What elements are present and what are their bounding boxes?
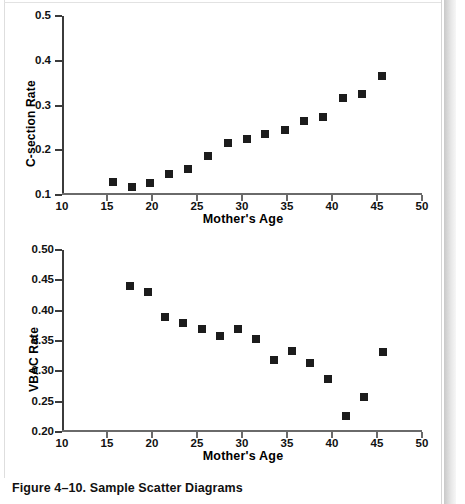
- y-tick-mark: [55, 149, 62, 151]
- y-tick-label: 0.20: [32, 426, 54, 438]
- y-tick-mark: [55, 431, 62, 433]
- plot-area-vbac: 0.200.250.300.350.400.450.50 10152025303…: [62, 250, 422, 432]
- y-axis-line-vbac: [62, 250, 64, 432]
- y-tick-label: 0.40: [32, 305, 54, 317]
- y-axis-title-c-section: C-section Rate: [24, 80, 38, 167]
- data-point: [339, 94, 347, 102]
- data-point: [128, 183, 136, 191]
- data-point: [252, 335, 260, 343]
- data-point: [300, 117, 308, 125]
- y-tick-label: 0.50: [32, 244, 54, 256]
- y-tick-mark: [55, 60, 62, 62]
- x-tick-label: 50: [416, 201, 429, 213]
- data-point: [324, 375, 332, 383]
- data-point: [146, 179, 154, 187]
- y-tick-label: 0.45: [32, 275, 54, 287]
- y-tick-mark: [55, 249, 62, 251]
- x-tick-label: 30: [236, 201, 249, 213]
- data-point: [161, 313, 169, 321]
- data-point: [378, 72, 386, 80]
- x-tick-label: 45: [371, 438, 384, 450]
- data-point: [234, 325, 242, 333]
- data-point: [261, 130, 269, 138]
- x-tick-label: 40: [326, 201, 339, 213]
- data-point: [109, 178, 117, 186]
- data-point: [288, 347, 296, 355]
- y-tick-mark: [55, 401, 62, 403]
- x-tick-label: 35: [281, 201, 294, 213]
- y-tick-mark: [55, 15, 62, 17]
- x-tick-label: 15: [101, 201, 114, 213]
- x-tick-label: 40: [326, 438, 339, 450]
- data-point: [306, 359, 314, 367]
- data-point: [165, 170, 173, 178]
- data-point: [270, 356, 278, 364]
- y-tick-label: 0.1: [35, 189, 51, 201]
- y-axis-title-vbac: VBAC Rate: [27, 327, 41, 392]
- data-point: [319, 113, 327, 121]
- y-tick-mark: [55, 105, 62, 107]
- x-tick-label: 45: [371, 201, 384, 213]
- data-point: [179, 319, 187, 327]
- y-axis-line-c-section: [62, 16, 64, 195]
- x-tick-label: 25: [191, 438, 204, 450]
- y-tick-mark: [55, 279, 62, 281]
- x-tick-label: 50: [416, 438, 429, 450]
- y-tick-mark: [55, 194, 62, 196]
- y-tick-mark: [55, 310, 62, 312]
- x-tick-label: 10: [56, 438, 69, 450]
- data-point: [379, 348, 387, 356]
- data-point: [144, 288, 152, 296]
- data-point: [243, 135, 251, 143]
- data-point: [184, 165, 192, 173]
- x-tick-label: 30: [236, 438, 249, 450]
- data-point: [342, 412, 350, 420]
- x-tick-label: 25: [191, 201, 204, 213]
- data-point: [126, 282, 134, 290]
- x-axis-title-c-section: Mother's Age: [203, 212, 284, 226]
- data-point: [224, 139, 232, 147]
- x-tick-label: 10: [56, 201, 69, 213]
- y-tick-label: 0.25: [32, 396, 54, 408]
- data-point: [216, 332, 224, 340]
- scatter-chart-vbac: 0.200.250.300.350.400.450.50 10152025303…: [0, 236, 465, 468]
- y-tick-mark: [55, 370, 62, 372]
- x-tick-label: 20: [146, 438, 159, 450]
- x-axis-title-vbac: Mother's Age: [203, 449, 284, 463]
- y-tick-mark: [55, 340, 62, 342]
- x-tick-label: 35: [281, 438, 294, 450]
- figure-caption: Figure 4–10. Sample Scatter Diagrams: [12, 481, 243, 495]
- data-point: [198, 325, 206, 333]
- plot-area-c-section: 0.10.20.30.40.5 101520253035404550: [62, 16, 422, 195]
- data-point: [204, 152, 212, 160]
- data-point: [360, 393, 368, 401]
- x-tick-label: 15: [101, 438, 114, 450]
- y-tick-label: 0.5: [35, 10, 51, 22]
- x-tick-label: 20: [146, 201, 159, 213]
- y-tick-label: 0.4: [35, 55, 51, 67]
- data-point: [281, 126, 289, 134]
- scatter-chart-c-section: 0.10.20.30.40.5 101520253035404550 C-sec…: [0, 0, 465, 225]
- data-point: [358, 90, 366, 98]
